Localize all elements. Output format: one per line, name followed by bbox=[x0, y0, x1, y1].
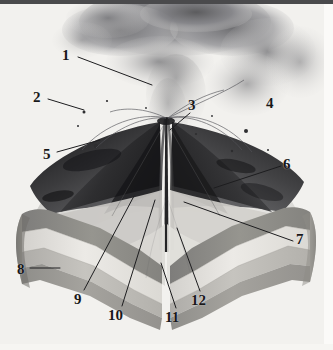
callout-label-5: 5 bbox=[43, 147, 51, 161]
right-edge-strip bbox=[324, 4, 333, 350]
callout-label-10: 10 bbox=[108, 308, 123, 322]
callout-label-1: 1 bbox=[62, 48, 70, 62]
summit-vent bbox=[157, 117, 175, 125]
callout-label-11: 11 bbox=[165, 310, 179, 324]
callout-label-12: 12 bbox=[191, 293, 206, 307]
bottom-edge-strip bbox=[0, 344, 333, 350]
callout-label-8: 8 bbox=[17, 262, 25, 276]
callout-label-9: 9 bbox=[74, 292, 82, 306]
callout-label-2: 2 bbox=[33, 90, 41, 104]
callout-label-7: 7 bbox=[296, 232, 304, 246]
volcano-diagram-figure: 1 2 3 4 5 6 7 8 9 10 11 12 bbox=[0, 0, 333, 350]
callout-label-6: 6 bbox=[283, 157, 291, 171]
top-edge-bar bbox=[0, 0, 333, 4]
callout-label-4: 4 bbox=[266, 96, 274, 110]
volcano-illustration bbox=[0, 0, 333, 350]
callout-label-3: 3 bbox=[188, 98, 196, 112]
